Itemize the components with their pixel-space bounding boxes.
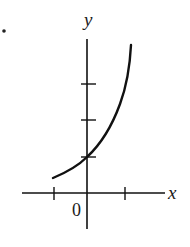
y-axis-label: y (82, 9, 93, 30)
exponential-curve (53, 45, 131, 178)
origin-label: 0 (72, 200, 81, 220)
graph-canvas: y x 0 (0, 0, 190, 247)
bullet-dot (2, 29, 6, 33)
x-axis-label: x (167, 182, 177, 203)
